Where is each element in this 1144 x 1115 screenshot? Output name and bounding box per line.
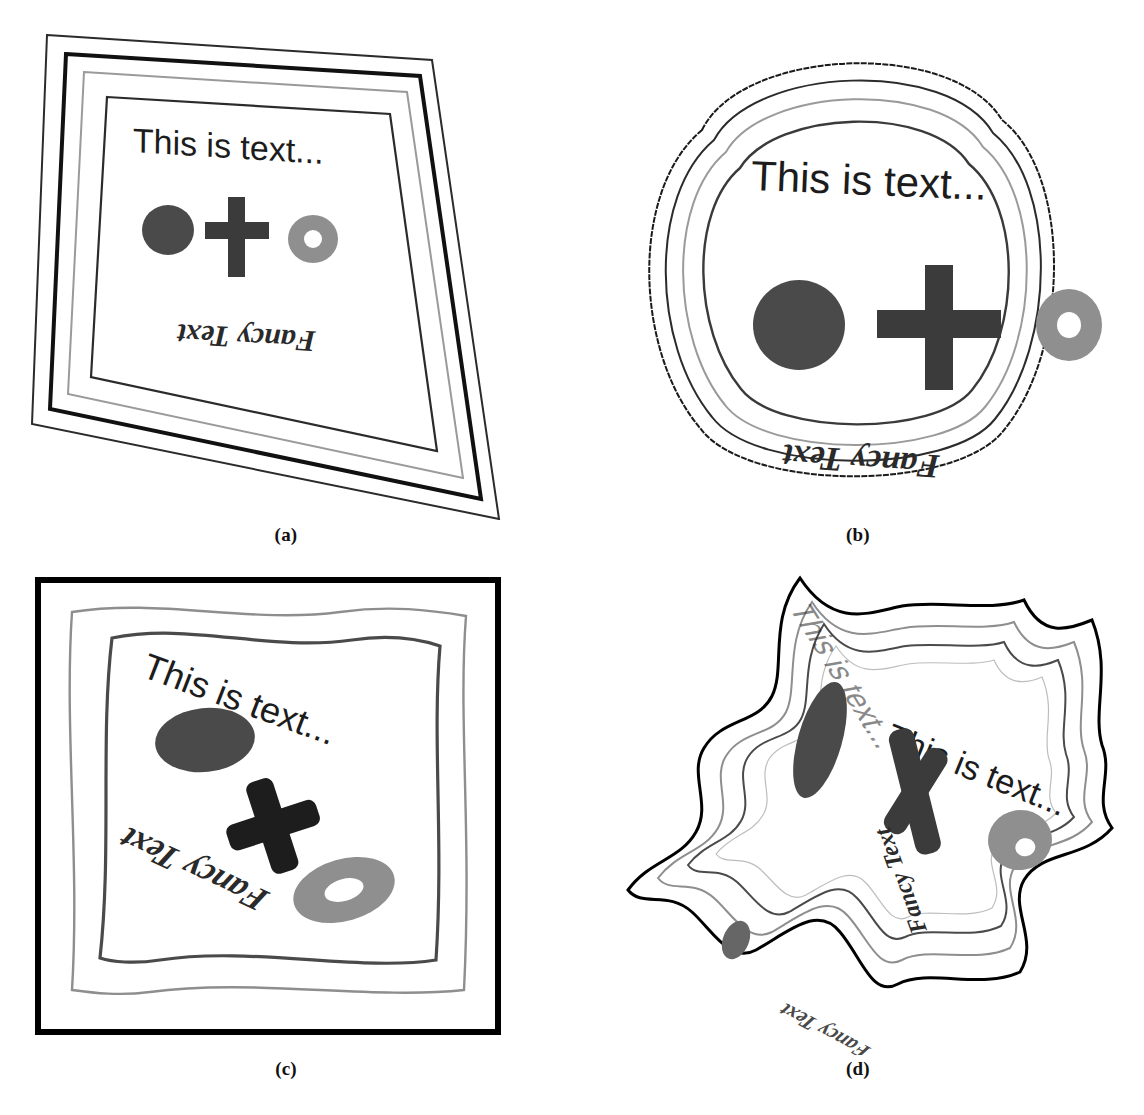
panel-a: This is text... Fancy Text (a) (0, 0, 572, 560)
panel-b-heading-group: This is text... (750, 152, 987, 209)
panel-a-filled-circle (142, 205, 194, 255)
panel-c-caption: (c) (0, 1058, 572, 1080)
panel-a-caption: (a) (0, 524, 572, 546)
panel-c: This is text... Fancy Text (c) (0, 560, 572, 1115)
panel-a-background (0, 0, 572, 520)
panel-b: This is text... Fancy Text (b) (572, 0, 1144, 560)
panel-b-caption: (b) (572, 524, 1144, 546)
panel-a-artwork: This is text... Fancy Text (0, 0, 572, 520)
panel-b-heading: This is text... (750, 152, 987, 209)
panel-d-artwork: This is text... This is text... Fancy Te… (572, 560, 1144, 1055)
panel-b-background (572, 0, 1144, 520)
panel-b-artwork: This is text... Fancy Text (572, 0, 1144, 520)
panel-b-ring-donut (1036, 289, 1102, 361)
panel-d: This is text... This is text... Fancy Te… (572, 560, 1144, 1115)
panel-c-artwork: This is text... Fancy Text (0, 560, 572, 1055)
panel-d-stage: This is text... This is text... Fancy Te… (572, 560, 1144, 1055)
panel-a-ring-donut (288, 215, 338, 263)
panel-a-stage: This is text... Fancy Text (0, 0, 572, 520)
panel-d-caption: (d) (572, 1058, 1144, 1080)
figure-grid: This is text... Fancy Text (a) (0, 0, 1144, 1115)
panel-b-filled-circle (753, 280, 845, 370)
panel-c-stage: This is text... Fancy Text (0, 560, 572, 1055)
panel-b-stage: This is text... Fancy Text (572, 0, 1144, 520)
